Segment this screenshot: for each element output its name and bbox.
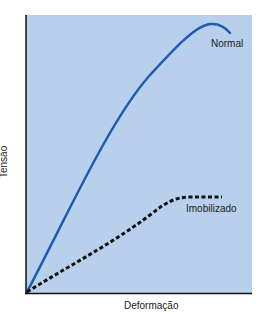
y-axis-label: Tensão: [0, 146, 9, 178]
plot-area: [26, 15, 252, 293]
imobilizado-label: Imobilizado: [186, 203, 237, 214]
normal-label: Normal: [211, 38, 243, 49]
x-axis-label: Deformação: [124, 300, 178, 311]
